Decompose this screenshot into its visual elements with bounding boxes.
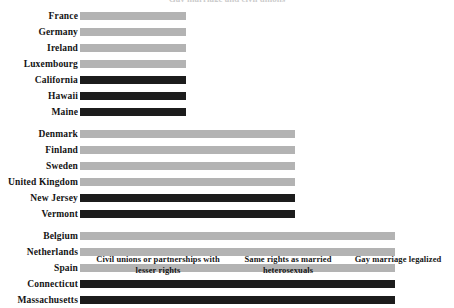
category-label: New Jersey: [0, 190, 78, 206]
bar: [80, 12, 186, 20]
bar: [80, 60, 186, 68]
category-label: Luxembourg: [0, 56, 78, 72]
x-axis-group-0: Civil unions or partnerships with lesser…: [58, 254, 258, 276]
bar: [80, 146, 295, 154]
bar-row: Belgium: [0, 228, 454, 244]
bar-row: California: [0, 72, 454, 88]
bar-row: New Jersey: [0, 190, 454, 206]
category-label: France: [0, 8, 78, 24]
bar-row: Massachusetts: [0, 292, 454, 308]
x-axis-group-1-line1: Same rights as married: [245, 254, 332, 264]
category-label: Finland: [0, 142, 78, 158]
bar: [80, 162, 295, 170]
bar: [80, 108, 186, 116]
x-axis-group-0-line1: Civil unions or partnerships with: [96, 254, 220, 264]
bar-row: Ireland: [0, 40, 454, 56]
bar: [80, 178, 295, 186]
bar: [80, 194, 295, 202]
category-label: Denmark: [0, 126, 78, 142]
x-axis-group-1: Same rights as married heterosexuals: [233, 254, 343, 276]
bar-row: Hawaii: [0, 88, 454, 104]
category-label: Sweden: [0, 158, 78, 174]
bar-row: Sweden: [0, 158, 454, 174]
bar: [80, 92, 186, 100]
plot-area: FranceGermanyIrelandLuxembourgCalifornia…: [0, 0, 454, 252]
category-label: California: [0, 72, 78, 88]
x-axis-group-2: Gay marriage legalized: [342, 254, 454, 265]
bar: [80, 76, 186, 84]
bar-row: Vermont: [0, 206, 454, 222]
category-label: Massachusetts: [0, 292, 78, 308]
bar: [80, 130, 295, 138]
category-label: Germany: [0, 24, 78, 40]
bar: [80, 44, 186, 52]
bar: [80, 210, 295, 218]
bar-row: Luxembourg: [0, 56, 454, 72]
bar-row: Finland: [0, 142, 454, 158]
bar: [80, 296, 395, 304]
x-axis-group-labels: Civil unions or partnerships with lesser…: [0, 254, 454, 284]
x-axis-group-0-line2: lesser rights: [136, 265, 181, 275]
category-label: Ireland: [0, 40, 78, 56]
bar: [80, 232, 395, 240]
category-label: Vermont: [0, 206, 78, 222]
category-label: Hawaii: [0, 88, 78, 104]
category-label: Maine: [0, 104, 78, 120]
bar: [80, 28, 186, 36]
bar-row: France: [0, 8, 454, 24]
category-label: Belgium: [0, 228, 78, 244]
bar-row: Germany: [0, 24, 454, 40]
bar-row: Denmark: [0, 126, 454, 142]
category-label: United Kingdom: [0, 174, 78, 190]
bar-row: United Kingdom: [0, 174, 454, 190]
x-axis-group-1-line2: heterosexuals: [263, 265, 313, 275]
bar-row: Maine: [0, 104, 454, 120]
x-axis-group-2-line1: Gay marriage legalized: [355, 254, 442, 264]
